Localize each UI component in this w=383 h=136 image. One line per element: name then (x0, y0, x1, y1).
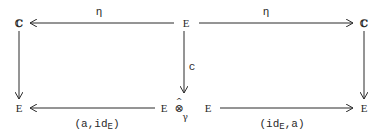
node-bottom-right-E: E (361, 103, 368, 114)
node-bottom-left-E: E (16, 103, 23, 114)
label-a-id-main: (a,id (74, 118, 107, 130)
label-id-a-main: (id (259, 118, 279, 130)
label-c: c (189, 62, 196, 73)
label-a-id-sub: E (108, 122, 113, 132)
gamma-subscript: γ (182, 112, 187, 122)
label-eta-left: η (96, 7, 103, 18)
node-bottom-center-left-E: E (161, 103, 168, 114)
node-top-right-C: ℂ (360, 18, 368, 29)
label-a-id-end: ) (113, 118, 120, 130)
label-id-a-end: ,a) (285, 118, 305, 130)
label-id-a-sub: E (279, 122, 284, 132)
node-top-center-E: E (183, 18, 190, 29)
label-id-a: (idE,a) (259, 119, 304, 131)
label-eta-right: η (263, 7, 270, 18)
label-a-id: (a,idE) (74, 119, 119, 131)
node-top-left-C: ℂ (15, 18, 23, 29)
tensor-operator: ^ ⊗ γ (174, 98, 183, 114)
node-bottom-center-right-E: E (205, 103, 212, 114)
